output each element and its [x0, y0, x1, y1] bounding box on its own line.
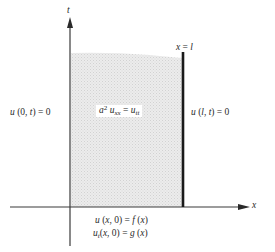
pde-eq: = [121, 105, 131, 115]
t-axis-label: t [67, 6, 70, 16]
ic1-rest: , 0) = [110, 215, 133, 225]
initial-condition-velocity: ut(x, 0) = g (x) [93, 229, 148, 239]
x-axis-label: x [252, 201, 256, 211]
x-axis-arrowhead-icon [238, 204, 250, 210]
ic2-close: ) [144, 228, 147, 238]
pde-exp: 2 [104, 104, 108, 112]
right-boundary-condition: u (l, t) = 0 [191, 108, 229, 118]
boundary-eq: = [180, 42, 190, 52]
lbc-close: ) = 0 [32, 107, 50, 117]
rbc-close: ) = 0 [211, 107, 229, 117]
left-boundary-condition: u (0, t) = 0 [10, 108, 50, 118]
ic2-sub: t [98, 232, 100, 240]
shaded-domain-region [71, 53, 183, 207]
ic1-close: ) [145, 215, 148, 225]
wave-equation: a2 uxx = utt [96, 105, 142, 117]
pde-sub2: tt [135, 109, 139, 117]
boundary-line-label: x = l [176, 43, 193, 53]
lbc-args: (0, [15, 107, 30, 117]
initial-condition-displacement: u (x, 0) = f (x) [95, 216, 148, 226]
pde-sub1: xx [114, 109, 120, 117]
ic2-rest: , 0) = [107, 228, 130, 238]
t-axis-arrowhead-icon [67, 17, 73, 28]
boundary-val: l [190, 42, 193, 52]
